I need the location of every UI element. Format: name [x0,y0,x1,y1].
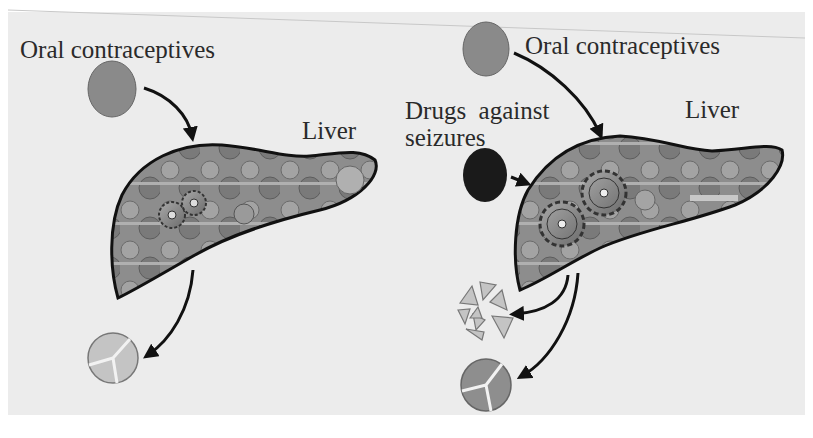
contraceptive-pill-icon [463,22,509,76]
left-drug-label: Oral contraceptives [20,37,215,63]
output-arrow-icon [522,273,578,376]
left-liver-label: Liver [302,118,356,144]
liver-icon [112,145,377,298]
output-arrow-icon [148,270,193,355]
gear-icon [582,171,626,215]
seizure-drug-label-line2: seizures [405,125,486,151]
contraceptive-pill-icon [88,61,136,117]
metabolized-drug-icon [461,359,511,411]
seizure-drug-label-line1: Drugs against [405,98,549,124]
intake-arrow-icon [144,88,192,136]
gear-icon [159,202,185,228]
liver-icon [515,136,782,290]
seizure-drug-pill-icon [463,148,507,202]
fragmented-metabolite-icon [458,282,513,340]
right-panel [458,22,783,411]
seizure-drug-arrow-icon [511,177,526,183]
right-liver-label: Liver [685,97,739,123]
right-drug-label: Oral contraceptives [525,33,720,59]
intact-metabolite-icon [88,333,138,383]
diagram-artwork [0,0,813,438]
gear-icon [182,191,206,215]
left-panel [88,61,376,383]
gear-icon [540,202,584,246]
